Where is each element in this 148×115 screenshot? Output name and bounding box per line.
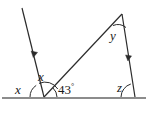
angle-label-z: z (117, 81, 122, 94)
geometry-figure: x x 43° y z (0, 0, 148, 115)
geometry-canvas (0, 0, 148, 115)
angle-arc-43 (53, 88, 57, 97)
right-parallel-arrow-icon (125, 55, 132, 61)
angle-label-x-outer: x (15, 83, 21, 96)
angle-arc-z (121, 84, 131, 97)
angle-label-x-inner: x (38, 70, 44, 83)
angle-value-43: 43 (58, 82, 71, 97)
angle-label-y: y (110, 29, 116, 42)
angle-label-43-degrees: 43° (58, 83, 74, 96)
left-parallel-arrow-icon (30, 51, 38, 58)
degree-symbol-icon: ° (71, 82, 74, 91)
transversal-line (44, 14, 122, 97)
angle-arc-x-outer (30, 85, 36, 97)
